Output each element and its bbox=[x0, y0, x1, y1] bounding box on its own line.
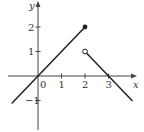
x-axis-arrow-icon bbox=[131, 74, 137, 79]
open-dot-icon bbox=[83, 49, 88, 54]
x-tick-label: 3 bbox=[106, 79, 112, 90]
data-series bbox=[12, 27, 132, 103]
x-tick-label: 0 bbox=[40, 79, 46, 90]
piecewise-function-graph: 0123−112 x y bbox=[0, 0, 144, 132]
x-axis-label: x bbox=[133, 79, 139, 90]
y-axis-arrow-icon bbox=[36, 1, 41, 7]
closed-dot-icon bbox=[83, 25, 88, 30]
x-tick-label: 1 bbox=[59, 79, 65, 90]
y-tick-label: 1 bbox=[28, 46, 34, 57]
axes bbox=[8, 1, 137, 130]
x-tick-label: 2 bbox=[82, 79, 88, 90]
y-axis-label: y bbox=[28, 0, 35, 11]
line-segment bbox=[12, 27, 85, 103]
y-tick-label: 2 bbox=[28, 22, 34, 33]
y-tick-label: −1 bbox=[25, 95, 40, 106]
